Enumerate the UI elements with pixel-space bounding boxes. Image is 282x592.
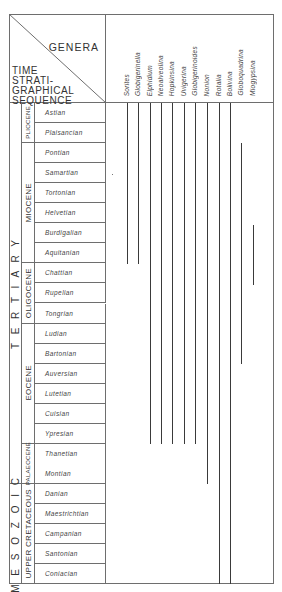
- stage-row: Astian: [35, 103, 106, 123]
- stage-label: Montian: [45, 470, 71, 477]
- stage-label: Tongrian: [45, 310, 73, 317]
- stage-row: Ludian: [35, 324, 106, 344]
- range-bar-globigerinoides: [195, 103, 196, 444]
- stage-label: Thanetian: [45, 450, 78, 457]
- range-bar-globigerinella: [138, 103, 139, 264]
- stray-mark: [112, 174, 113, 175]
- genus-label: Globigerinoides: [191, 46, 198, 96]
- genus-label: Neoalveolina: [157, 55, 164, 96]
- epoch-label: OLIGOCENE: [24, 268, 33, 318]
- genus-label: Hopkinsina: [168, 61, 175, 96]
- stage-row: Santonian: [35, 544, 106, 564]
- stage-label: Pontian: [45, 149, 70, 156]
- stage-label: Burdigalian: [45, 229, 82, 236]
- stage-label: Maestrichtian: [45, 510, 89, 517]
- range-bar-hopkinsina: [172, 103, 173, 444]
- time-sequence-title: TIME STRATI- GRAPHICAL SEQUENCE: [12, 66, 74, 106]
- epoch-label: PALAEOCENE: [25, 442, 31, 485]
- stage-row: Coniacian: [35, 564, 106, 584]
- epoch-label: UPPER CRETACEOUS: [24, 489, 33, 579]
- stage-label: Rupelian: [45, 289, 74, 296]
- stage-row: Montian: [35, 464, 106, 484]
- stage-label: Campanian: [45, 530, 82, 537]
- stage-label: Chattian: [45, 269, 72, 276]
- stage-row: Samartian: [35, 163, 106, 183]
- genera-header: SoritesGlobigerinellaElphidiumNeoalveoli…: [106, 14, 274, 103]
- stage-row: Danian: [35, 484, 106, 504]
- epoch-eocene: EOCENE: [22, 324, 35, 444]
- epoch-upper-cretaceous: UPPER CRETACEOUS: [22, 484, 35, 584]
- genus-label: Rotalia: [215, 74, 222, 96]
- stage-row: Burdigalian: [35, 223, 106, 243]
- era-mesozoic: M E S O Z O I C: [9, 484, 22, 584]
- epoch-palaeocene: PALAEOCENE: [22, 444, 35, 484]
- stage-label: Tortonian: [45, 189, 75, 196]
- range-bar-bolivina: [230, 103, 231, 584]
- genus-label: Miogypsina: [249, 60, 256, 96]
- range-bar-rotalia: [219, 103, 220, 584]
- stage-row: Cuisian: [35, 404, 106, 424]
- stage-label: Helvetian: [45, 209, 76, 216]
- stage-label: Auversian: [45, 370, 78, 377]
- stage-label: Aquitanian: [45, 249, 80, 256]
- stage-row: Lutetian: [35, 384, 106, 404]
- era-label: T E R T I A R Y: [10, 237, 21, 349]
- stage-row: Thanetian: [35, 444, 106, 464]
- stage-label: Samartian: [45, 169, 78, 176]
- stage-row: Plaisancian: [35, 123, 106, 143]
- stage-label: Santonian: [45, 550, 78, 557]
- epoch-miocene: MIOCENE: [22, 143, 35, 263]
- range-bar-elphidium: [150, 103, 151, 444]
- genus-label: Uvigerina: [180, 66, 187, 96]
- stage-row: Maestrichtian: [35, 504, 106, 524]
- stage-row: Helvetian: [35, 203, 106, 223]
- stage-label: Coniacian: [45, 570, 78, 577]
- genus-label: Bolivina: [226, 71, 233, 96]
- stage-label: Astian: [45, 109, 65, 116]
- epoch-label: MIOCENE: [24, 183, 33, 222]
- stage-row: Tortonian: [35, 183, 106, 203]
- range-bar-uvigerina: [184, 103, 185, 444]
- header-corner: GENERA TIME STRATI- GRAPHICAL SEQUENCE: [9, 14, 106, 103]
- range-bar-neoalveolina: [161, 103, 162, 444]
- stage-row: Bartonian: [35, 344, 106, 364]
- genus-label: Elphidium: [146, 65, 153, 96]
- stage-row: Aquitanian: [35, 243, 106, 263]
- epoch-oligocene: OLIGOCENE: [22, 263, 35, 323]
- epoch-label: EOCENE: [24, 365, 33, 401]
- stage-row: Rupelian: [35, 283, 106, 303]
- stage-row: Ypresian: [35, 424, 106, 444]
- range-bar-globoquadrina: [241, 143, 242, 364]
- genus-label: Sorites: [123, 74, 130, 96]
- stage-row: Pontian: [35, 143, 106, 163]
- range-bar-nonion: [207, 103, 208, 484]
- stage-row: Chattian: [35, 263, 106, 283]
- epoch-label: PLIOCENE: [25, 106, 31, 139]
- stage-label: Cuisian: [45, 410, 69, 417]
- era-column: T E R T I A R YM E S O Z O I C: [9, 103, 22, 584]
- stage-row: Auversian: [35, 364, 106, 384]
- stage-row: Campanian: [35, 524, 106, 544]
- stage-label: Ludian: [45, 330, 67, 337]
- genus-label: Nonion: [203, 74, 210, 96]
- range-bar-miogypsina: [253, 225, 254, 285]
- genus-label: Globigerinella: [134, 52, 141, 96]
- stage-label: Bartonian: [45, 350, 76, 357]
- genus-label: Globoquadrina: [237, 49, 244, 96]
- genera-title: GENERA: [49, 41, 99, 53]
- era-tertiary: T E R T I A R Y: [9, 103, 22, 484]
- stage-label: Danian: [45, 490, 68, 497]
- stage-label: Plaisancian: [45, 129, 83, 136]
- range-bar-sorites: [127, 103, 128, 264]
- epoch-pliocene: PLIOCENE: [22, 103, 35, 143]
- stage-row: Tongrian: [35, 304, 106, 324]
- era-label: M E S O Z O I C: [10, 475, 21, 592]
- stage-label: Ypresian: [45, 430, 74, 437]
- stage-label: Lutetian: [45, 390, 71, 397]
